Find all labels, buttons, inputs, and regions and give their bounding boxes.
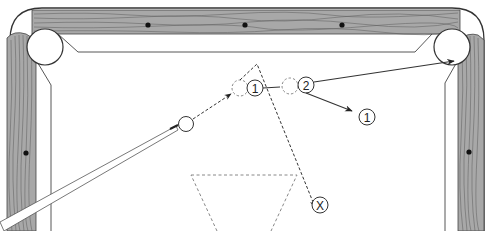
- ball-2-to-pocket-arrow: [314, 61, 454, 82]
- billiards-diagram: 1 2 1 X: [0, 0, 493, 231]
- diamond-marker: [466, 149, 471, 154]
- table-rail: [7, 8, 484, 231]
- diamond-marker: [145, 22, 150, 27]
- diamond-marker: [242, 22, 247, 27]
- ghost-ball-1: [232, 80, 248, 96]
- object-ball-2-label: 2: [303, 79, 310, 93]
- top-left-pocket: [27, 29, 63, 65]
- ball-1-path: [263, 87, 280, 88]
- cushion-outline: [36, 34, 458, 231]
- object-ball-1-label: 1: [252, 82, 259, 96]
- ghost-ball-2: [282, 78, 298, 94]
- ball-1-deflection-arrow: [306, 93, 352, 111]
- cue-ball-path-arrow: [193, 94, 231, 119]
- ball-1-final-label: 1: [364, 111, 371, 125]
- diamond-marker: [339, 22, 344, 27]
- top-right-pocket: [434, 29, 470, 65]
- right-wood-rail: [458, 34, 484, 231]
- diamond-marker: [23, 150, 28, 155]
- cue-ball-final-label: X: [316, 199, 324, 213]
- cue-ball: [179, 117, 194, 132]
- rack-triangle-outline: [191, 175, 297, 231]
